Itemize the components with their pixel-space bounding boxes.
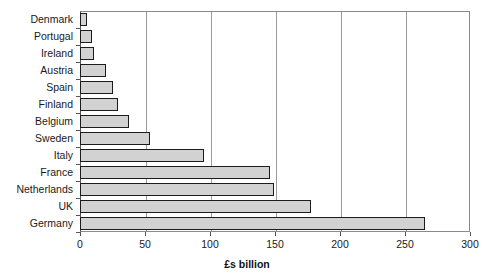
bar-uk	[80, 200, 311, 213]
x-axis-tick-label-300: 300	[450, 238, 490, 250]
x-axis-tick-200	[340, 232, 341, 236]
x-axis-tick-label-100: 100	[190, 238, 230, 250]
x-axis-tick-0	[80, 232, 81, 236]
bar-portugal	[80, 30, 92, 43]
y-axis-label-netherlands: Netherlands	[0, 184, 73, 195]
x-axis-tick-label-0: 0	[60, 238, 100, 250]
x-axis-tick-label-50: 50	[125, 238, 165, 250]
y-axis-label-portugal: Portugal	[0, 31, 73, 42]
x-axis-title: £s billion	[0, 258, 494, 270]
bar-netherlands	[80, 183, 274, 196]
x-axis-tick-250	[405, 232, 406, 236]
x-axis-tick-label-250: 250	[385, 238, 425, 250]
bar-series	[80, 11, 470, 232]
y-axis-label-sweden: Sweden	[0, 133, 73, 144]
y-axis-category-labels: DenmarkPortugalIrelandAustriaSpainFinlan…	[0, 11, 73, 232]
x-axis-tick-300	[470, 232, 471, 236]
bar-denmark	[80, 13, 87, 26]
bar-spain	[80, 81, 113, 94]
bar-ireland	[80, 47, 94, 60]
bar-belgium	[80, 115, 129, 128]
y-axis-label-germany: Germany	[0, 218, 73, 229]
bar-sweden	[80, 132, 150, 145]
bar-austria	[80, 64, 106, 77]
bar-france	[80, 166, 270, 179]
y-axis-label-spain: Spain	[0, 82, 73, 93]
y-axis-label-denmark: Denmark	[0, 14, 73, 25]
x-axis-tick-100	[210, 232, 211, 236]
y-axis-label-uk: UK	[0, 201, 73, 212]
bar-finland	[80, 98, 118, 111]
y-axis-label-france: France	[0, 167, 73, 178]
bar-italy	[80, 149, 204, 162]
y-axis-label-austria: Austria	[0, 65, 73, 76]
y-axis-label-ireland: Ireland	[0, 48, 73, 59]
x-axis-tick-50	[145, 232, 146, 236]
bar-germany	[80, 217, 425, 230]
y-axis-label-finland: Finland	[0, 99, 73, 110]
x-axis-tick-150	[275, 232, 276, 236]
y-axis-label-belgium: Belgium	[0, 116, 73, 127]
bar-chart: DenmarkPortugalIrelandAustriaSpainFinlan…	[0, 0, 494, 280]
y-axis-label-italy: Italy	[0, 150, 73, 161]
x-axis-tick-label-150: 150	[255, 238, 295, 250]
x-axis-tick-label-200: 200	[320, 238, 360, 250]
